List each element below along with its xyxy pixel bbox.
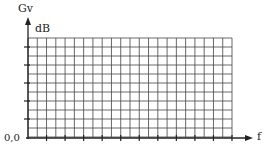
x-axis-label: f — [257, 131, 261, 142]
x-axis-arrow-icon — [245, 135, 253, 141]
y-axis-unit: dB — [35, 23, 50, 34]
origin-label: 0,0 — [4, 133, 20, 143]
y-axis-label: Gv — [18, 3, 33, 14]
y-axis-arrow-icon — [25, 17, 31, 25]
